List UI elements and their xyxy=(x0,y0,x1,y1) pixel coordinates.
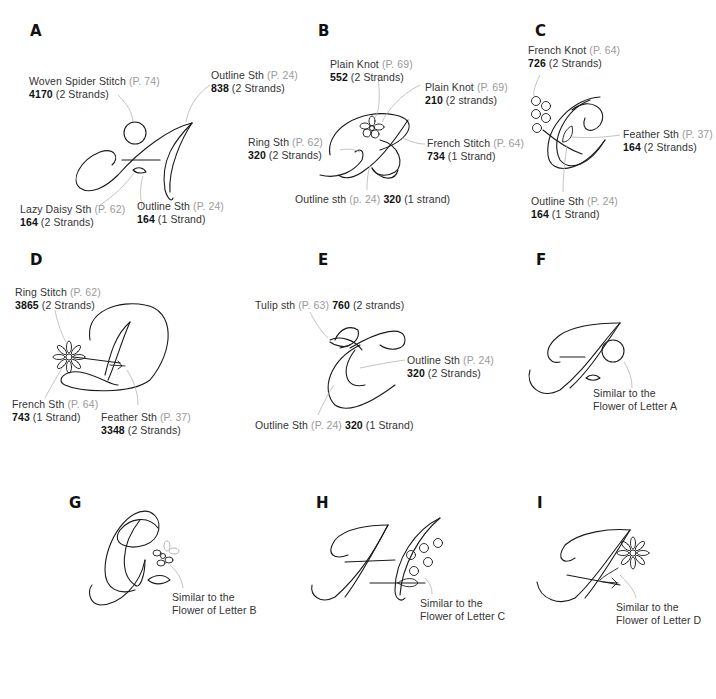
panel-heading-h: H xyxy=(316,494,329,512)
strand-count: (2 Strands) xyxy=(428,367,481,379)
note-line: Similar to the xyxy=(172,591,235,603)
annotation-b-plain-knot-1: Plain Knot (P. 69) 552 (2 Strands) xyxy=(330,58,413,84)
stitch-name: Ring Sth xyxy=(248,136,289,148)
thread-number: 734 xyxy=(427,150,445,162)
thread-number: 552 xyxy=(330,71,348,83)
thread-number: 838 xyxy=(211,82,229,94)
monogram-artwork xyxy=(0,0,716,699)
annotation-a-outline-bottom: Outline Sth (P. 24) 164 (1 Strand) xyxy=(137,200,224,226)
stitch-name: Outline Sth xyxy=(137,200,190,212)
page-ref: (P. 64) xyxy=(589,44,620,56)
strand-count: (2 Strands) xyxy=(644,141,697,153)
page-ref: (P. 64) xyxy=(493,137,524,149)
stitch-name: Plain Knot xyxy=(330,58,379,70)
thread-number: 3865 xyxy=(15,299,39,311)
panel-heading-e: E xyxy=(318,251,328,269)
strand-count: (2 Strands) xyxy=(351,71,404,83)
strand-count: (1 Strand) xyxy=(33,411,81,423)
thread-number: 743 xyxy=(12,411,30,423)
page-ref: (P. 69) xyxy=(477,81,508,93)
page-ref: (P. 62) xyxy=(94,203,125,215)
strand-count: (1 Strand) xyxy=(552,208,600,220)
note-g: Similar to the Flower of Letter B xyxy=(172,591,257,617)
stitch-name: French Sth xyxy=(12,398,64,410)
note-line: Flower of Letter C xyxy=(420,610,505,622)
annotation-a-outline-top: Outline Sth (P. 24) 838 (2 Strands) xyxy=(211,69,298,95)
page-ref: (P. 24) xyxy=(193,200,224,212)
annotation-c-outline: Outline Sth (P. 24) 164 (1 Strand) xyxy=(531,195,618,221)
thread-number: 320 xyxy=(345,419,363,431)
annotation-e-outline-bottom: Outline Sth (P. 24) 320 (1 Strand) xyxy=(255,419,414,432)
annotation-b-outline: Outline sth (p. 24) 320 (1 strand) xyxy=(295,193,450,206)
note-line: Similar to the xyxy=(616,601,679,613)
strand-count: (2 strands) xyxy=(446,94,497,106)
annotation-b-plain-knot-2: Plain Knot (P. 69) 210 (2 strands) xyxy=(425,81,508,107)
annotation-c-feather: Feather Sth (P. 37) 164 (2 Strands) xyxy=(623,128,713,154)
strand-count: (1 Strand) xyxy=(366,419,414,431)
stitch-name: French Stitch xyxy=(427,137,490,149)
stitch-name: Outline Sth xyxy=(211,69,264,81)
stitch-name: Ring Stitch xyxy=(15,286,67,298)
panel-heading-f: F xyxy=(536,251,546,269)
strand-count: (1 strand) xyxy=(404,193,450,205)
page-ref: (P. 62) xyxy=(70,286,101,298)
monogram-i xyxy=(537,530,649,602)
page-ref: (P. 62) xyxy=(292,136,323,148)
thread-number: 164 xyxy=(623,141,641,153)
stitch-name: Feather Sth xyxy=(101,411,157,423)
stitch-name: Feather Sth xyxy=(623,128,679,140)
stitch-name: Outline Sth xyxy=(255,419,308,431)
strand-count: (2 Strands) xyxy=(269,149,322,161)
monogram-c xyxy=(532,75,621,192)
annotation-d-ring-stitch: Ring Stitch (P. 62) 3865 (2 Strands) xyxy=(15,286,101,312)
annotation-a-lazy-daisy: Lazy Daisy Sth (P. 62) 164 (2 Strands) xyxy=(20,203,125,229)
thread-number: 320 xyxy=(407,367,425,379)
panel-heading-a: A xyxy=(30,22,42,40)
panel-heading-g: G xyxy=(69,494,81,512)
panel-heading-c: C xyxy=(535,22,546,40)
panel-heading-b: B xyxy=(318,22,329,40)
page-ref: (P. 37) xyxy=(682,128,713,140)
stitch-name: Tulip sth xyxy=(255,299,295,311)
strand-count: (1 Strand) xyxy=(158,213,206,225)
stitch-name: Outline Sth xyxy=(531,195,584,207)
annotation-d-feather: Feather Sth (P. 37) 3348 (2 Strands) xyxy=(101,411,191,437)
annotation-e-outline-right: Outline Sth (P. 24) 320 (2 Strands) xyxy=(407,354,494,380)
strand-count: (2 Strands) xyxy=(41,216,94,228)
thread-number: 760 xyxy=(332,299,350,311)
strand-count: (2 Strands) xyxy=(42,299,95,311)
thread-number: 210 xyxy=(425,94,443,106)
page-ref: (P. 64) xyxy=(67,398,98,410)
monogram-g xyxy=(90,511,183,605)
thread-number: 164 xyxy=(137,213,155,225)
strand-count: (2 Strands) xyxy=(232,82,285,94)
page-ref: (P. 24) xyxy=(587,195,618,207)
annotation-b-ring: Ring Sth (P. 62) 320 (2 Strands) xyxy=(248,136,323,162)
thread-number: 320 xyxy=(383,193,401,205)
monogram-d xyxy=(45,304,168,405)
stitch-name: Outline sth xyxy=(295,193,346,205)
page-ref: (P. 24) xyxy=(267,69,298,81)
monogram-e xyxy=(310,312,405,415)
stitch-name: Woven Spider Stitch xyxy=(29,75,126,87)
panel-heading-d: D xyxy=(30,251,42,269)
page-ref: (P. 63) xyxy=(298,299,329,311)
annotation-d-french: French Sth (P. 64) 743 (1 Strand) xyxy=(12,398,98,424)
note-line: Flower of Letter A xyxy=(593,400,677,412)
page-ref: (P. 24) xyxy=(463,354,494,366)
monogram-a xyxy=(76,85,210,208)
page-ref: (P. 74) xyxy=(129,75,160,87)
page-ref: (P. 69) xyxy=(382,58,413,70)
thread-number: 3348 xyxy=(101,424,125,436)
note-line: Flower of Letter D xyxy=(616,614,701,626)
thread-number: 320 xyxy=(248,149,266,161)
page-ref: (p. 24) xyxy=(349,193,380,205)
note-line: Flower of Letter B xyxy=(172,604,257,616)
page-ref: (P. 37) xyxy=(160,411,191,423)
annotation-a-woven-spider: Woven Spider Stitch (P. 74) 4170 (2 Stra… xyxy=(29,75,160,101)
strand-count: (1 Strand) xyxy=(448,150,496,162)
note-i: Similar to the Flower of Letter D xyxy=(616,601,701,627)
monogram-f xyxy=(529,323,632,393)
note-f: Similar to the Flower of Letter A xyxy=(593,387,677,413)
strand-count: (2 Strands) xyxy=(56,88,109,100)
